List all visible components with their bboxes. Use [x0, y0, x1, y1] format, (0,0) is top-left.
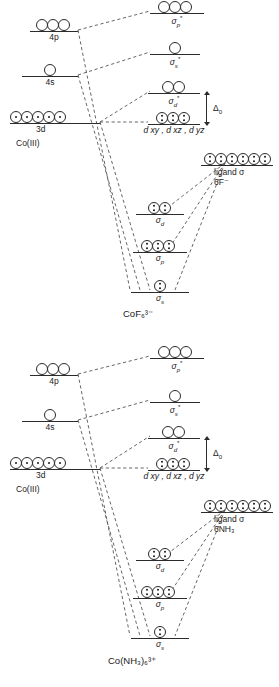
orbital [10, 111, 22, 123]
orbital-set-sigma-d [148, 548, 170, 560]
orbital-set-4s [44, 64, 55, 76]
orbital [159, 202, 171, 214]
level-ligand-sigma-conh3 [201, 499, 273, 513]
level-label-t2g: d xy , d xz , d yz [144, 126, 205, 135]
orbital [178, 458, 190, 470]
level-bar [201, 165, 273, 166]
orbital-set-ligand-sigma [204, 153, 270, 165]
level-label-t2g: d xy , d xz , d yz [144, 472, 205, 481]
level-label-sigma-s: σs [156, 640, 164, 651]
level-label-sigma-s-star: σs* [170, 56, 181, 69]
orbital [162, 426, 174, 438]
orbital [43, 457, 55, 469]
orbital-set-sigma-d-star [162, 426, 184, 438]
orbital [167, 112, 179, 124]
delta-o-arrow [206, 437, 207, 471]
ligand-sigma-line2: 6F⁻ [214, 177, 244, 187]
level-sigma-p-conh3: σp [133, 585, 187, 599]
ligand-sigma-line2: 6NH₃ [214, 524, 244, 534]
level-sigma-s-star-conh3: σs* [150, 389, 200, 403]
level-sigma-d-star-cof6: σd* [148, 80, 200, 94]
orbital [169, 1, 181, 13]
ligand-sigma-label-cof6: ligand σ 6F⁻ [214, 167, 244, 188]
orbital [21, 457, 33, 469]
orbital [259, 153, 271, 165]
orbital [158, 1, 170, 13]
orbital-set-sigma-s [154, 626, 165, 638]
orbital [163, 586, 175, 598]
level-label-sigma-d-star: σd* [169, 440, 180, 453]
level-sigma-s-cof6: σs [131, 279, 189, 293]
orbital [152, 240, 164, 252]
orbital-set-t2g [156, 458, 189, 470]
orbital [47, 19, 59, 31]
orbital [148, 202, 160, 214]
orbital [178, 112, 190, 124]
orbital [154, 280, 166, 292]
level-t2g-cof6: d xy , d xz , d yz [148, 111, 200, 125]
orbital [21, 111, 33, 123]
level-sigma-s-conh3: σs [131, 625, 189, 639]
orbital-set-4p [36, 363, 69, 375]
orbital [43, 111, 55, 123]
orbital [248, 500, 260, 512]
level-label-sigma-s: σs [156, 294, 164, 305]
orbital [58, 363, 70, 375]
orbital-set-sigma-d-star [162, 81, 184, 93]
level-sigma-p-cof6: σp [133, 239, 187, 253]
level-label-3d: 3d [36, 125, 45, 134]
delta-o-label: Δ0 [213, 103, 222, 115]
orbital [32, 111, 44, 123]
orbital-set-sigma-p [141, 240, 174, 252]
orbital [156, 112, 168, 124]
delta-o-label: Δ0 [213, 448, 222, 460]
level-4s-conh3: 4s [22, 408, 78, 422]
orbital-set-sigma-d [148, 202, 170, 214]
metal-ion-label-conh3: Co(III) [16, 484, 40, 494]
orbital [248, 153, 260, 165]
level-label-sigma-p-star: σp* [172, 360, 183, 373]
orbital-set-sigma-s-star [169, 42, 180, 54]
level-sigma-p-star-cof6: σp* [150, 0, 204, 14]
orbital-set-t2g [156, 112, 189, 124]
orbital-set-3d [10, 457, 65, 469]
orbital [180, 1, 192, 13]
level-3d-conh3: 3d [10, 456, 100, 470]
orbital [32, 457, 44, 469]
orbital-set-sigma-p-star [158, 1, 191, 13]
orbital [226, 500, 238, 512]
orbital [237, 153, 249, 165]
level-label-3d: 3d [36, 471, 45, 480]
orbital-set-sigma-p-star [158, 346, 191, 358]
orbital [58, 19, 70, 31]
level-sigma-d-cof6: σd [136, 201, 184, 215]
level-bar [10, 469, 100, 470]
orbital [204, 153, 216, 165]
level-label-sigma-p-star: σp* [172, 15, 183, 28]
compound-label-conh3: Co(NH₃)₆³⁺ [108, 655, 156, 666]
level-label-sigma-d-star: σd* [169, 95, 180, 108]
orbital [36, 363, 48, 375]
level-bar [201, 512, 273, 513]
orbital [173, 81, 185, 93]
level-bar [150, 402, 200, 403]
orbital-set-3d [10, 111, 65, 123]
level-label-sigma-d: σd [156, 562, 165, 573]
level-bar [150, 358, 204, 359]
level-bar [148, 93, 200, 94]
orbital [44, 409, 56, 421]
level-bar [10, 123, 100, 124]
orbital-set-sigma-s-star [169, 390, 180, 402]
level-label-4p: 4p [49, 33, 58, 42]
ligand-sigma-line1: ligand σ [214, 167, 244, 177]
level-ligand-sigma-cof6 [201, 152, 273, 166]
orbital [47, 363, 59, 375]
level-bar [148, 438, 200, 439]
orbital-set-sigma-p [141, 586, 174, 598]
orbital [141, 586, 153, 598]
level-sigma-p-star-conh3: σp* [150, 345, 204, 359]
orbital [169, 42, 181, 54]
orbital-set-ligand-sigma [204, 500, 270, 512]
orbital [152, 586, 164, 598]
mo-diagram-cof6: 4p 4s 3d Co(III) σp* [0, 0, 279, 340]
